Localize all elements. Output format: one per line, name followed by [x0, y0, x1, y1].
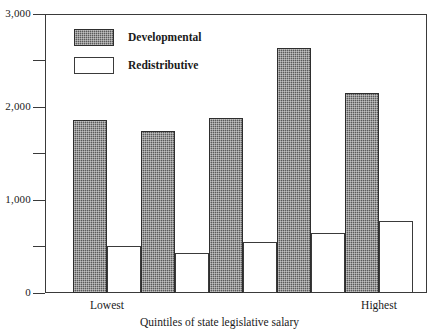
- y-tick-500: [33, 246, 45, 247]
- bar-developmental-3: [209, 118, 243, 293]
- y-tick-1000: [33, 200, 45, 201]
- legend-swatch-redistributive: [74, 57, 114, 74]
- bar-redistributive-2: [175, 253, 209, 293]
- legend: Developmental Redistributive: [74, 26, 201, 82]
- legend-swatch-developmental: [74, 29, 114, 46]
- x-axis-title: Quintiles of state legislative salary: [0, 316, 439, 329]
- bar-chart: 3,000 2,000 1,000 0 Developmental: [0, 0, 439, 335]
- legend-item-redistributive: Redistributive: [74, 54, 201, 76]
- bar-redistributive-1: [107, 246, 141, 293]
- y-axis-label-1000: 1,000: [0, 194, 31, 205]
- x-category-label-highest: Highest: [361, 299, 397, 311]
- legend-label-redistributive: Redistributive: [128, 59, 198, 71]
- x-category-label-lowest: Lowest: [90, 299, 124, 311]
- bar-redistributive-5: [379, 221, 413, 293]
- bar-developmental-5: [345, 93, 379, 293]
- y-tick-2000: [33, 107, 45, 108]
- bar-developmental-2: [141, 131, 175, 293]
- y-tick-1500: [33, 153, 45, 154]
- bar-developmental-4: [277, 48, 311, 294]
- y-axis-label-0: 0: [0, 287, 31, 298]
- bar-redistributive-3: [243, 242, 277, 293]
- y-tick-3000: [33, 14, 45, 15]
- y-tick-2500: [33, 60, 45, 61]
- bar-developmental-1: [73, 120, 107, 293]
- bar-redistributive-4: [311, 233, 345, 293]
- y-tick-0: [33, 293, 45, 294]
- y-axis-label-2000: 2,000: [0, 101, 31, 112]
- y-axis-label-3000: 3,000: [0, 8, 31, 19]
- legend-item-developmental: Developmental: [74, 26, 201, 48]
- legend-label-developmental: Developmental: [128, 31, 201, 43]
